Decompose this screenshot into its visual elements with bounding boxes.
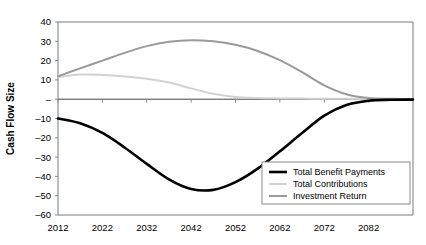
series-line-total-contributions [58,74,413,99]
legend-label-2: Investment Return [293,191,367,201]
cash-flow-chart: Cash Flow Size40302010––10–20–30–40–50–6… [0,0,426,245]
y-axis-title: Cash Flow Size [5,82,16,155]
legend-label-0: Total Benefit Payments [293,167,386,177]
y-tick-label: –30 [35,152,51,163]
x-tick-label: 2042 [181,222,202,233]
y-tick-label: 20 [40,55,51,66]
x-tick-label: 2032 [136,222,157,233]
x-tick-label: 2012 [47,222,68,233]
y-tick-label: 40 [40,16,51,27]
y-tick-label: –20 [35,132,51,143]
y-tick-label: –10 [35,113,51,124]
x-tick-label: 2072 [314,222,335,233]
x-tick-label: 2062 [269,222,290,233]
y-tick-label: 30 [40,36,51,47]
series-line-investment-return [58,40,413,99]
y-tick-label: – [46,94,52,105]
y-tick-label: –50 [35,190,51,201]
x-tick-label: 2082 [358,222,379,233]
x-tick-label: 2022 [92,222,113,233]
y-tick-label: –40 [35,171,51,182]
chart-canvas: Cash Flow Size40302010––10–20–30–40–50–6… [0,0,426,245]
y-tick-label: 10 [40,74,51,85]
x-tick-label: 2052 [225,222,246,233]
y-tick-label: –60 [35,209,51,220]
legend-label-1: Total Contributions [293,179,368,189]
